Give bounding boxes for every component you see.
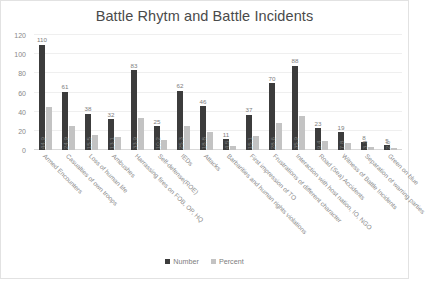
bar-group: 7028.6 (264, 35, 287, 150)
x-axis-label-slot: Frustrations of different character (264, 151, 287, 247)
bar-group: 6225.3 (172, 35, 195, 150)
bar-percent[interactable]: 13.1 (115, 137, 121, 150)
bar-value-label: 35.9 (293, 137, 299, 149)
y-axis-tick-label: 100 (14, 51, 26, 58)
chart-container: Battle Rhytm and Battle Incidents 020406… (0, 0, 409, 279)
bar-group: 11044.9 (34, 35, 57, 150)
bar-group: 4618.8 (195, 35, 218, 150)
bar-group: 197.8 (333, 35, 356, 150)
x-axis-label-slot: Interaction with host nation, IO, NGO (287, 151, 310, 247)
legend-swatch-icon (211, 259, 216, 264)
bar-value-label: 13.1 (109, 137, 115, 149)
bar-value-label: 2.0 (385, 140, 391, 149)
bar-value-label: 10.2 (155, 137, 161, 149)
x-axis-tick-label: Green on blue (386, 153, 419, 186)
bar-group: 8835.9 (287, 35, 310, 150)
bar-percent[interactable]: 44.9 (46, 107, 52, 150)
bar-percent[interactable]: 35.9 (299, 116, 305, 150)
x-axis-label-slot: IEDs (172, 151, 195, 247)
bar-value-label: 62 (177, 83, 184, 89)
x-axis-label-slot: Ambushes (103, 151, 126, 247)
bar-percent[interactable]: 33.9 (138, 118, 144, 150)
x-axis-label-slot: Road (Sea) Accidents (310, 151, 333, 247)
x-axis-label-slot: Barbarities and human rights violations (218, 151, 241, 247)
bar-percent[interactable]: 3.3 (368, 147, 374, 150)
x-axis-label-slot: Green on blue (379, 151, 402, 247)
bar-group: 2510.2 (149, 35, 172, 150)
bar-value-label: 88 (292, 58, 299, 64)
bar-group: 8333.9 (126, 35, 149, 150)
bar-group: 239.4 (310, 35, 333, 150)
legend-item-percent[interactable]: Percent (211, 257, 244, 266)
x-axis-label-slot: Loss of human life (80, 151, 103, 247)
bar-value-label: 4.5 (224, 140, 230, 149)
bar-value-label: 37 (246, 107, 253, 113)
bar-value-label: 33.9 (132, 137, 138, 149)
bar-value-label: 38 (85, 106, 92, 112)
bar-group: 83.3 (356, 35, 379, 150)
bar-group: 6124.9 (57, 35, 80, 150)
bar-percent[interactable]: 15.5 (92, 135, 98, 150)
x-axis-label-slot: Witness of Battle Incidents (333, 151, 356, 247)
bar-percent[interactable]: 4.5 (230, 146, 236, 150)
y-axis-tick-label: 0 (22, 147, 26, 154)
y-axis-tick-label: 80 (18, 70, 26, 77)
bar-value-label: 9.4 (316, 140, 322, 149)
bar-value-label: 3.3 (362, 140, 368, 149)
bar-group: 3815.5 (80, 35, 103, 150)
bar-value-label: 15.5 (86, 137, 92, 149)
bar-groups: 11044.96124.93815.53213.18333.92510.2622… (34, 35, 402, 150)
legend-label: Number (173, 257, 199, 266)
legend-item-number[interactable]: Number (165, 257, 199, 266)
bar-value-label: 19 (338, 125, 345, 131)
bar-value-label: 44.9 (40, 137, 46, 149)
x-axis-label-slot: Self-defense(ROE) (149, 151, 172, 247)
legend-swatch-icon (165, 259, 170, 264)
bar-value-label: 61 (62, 84, 69, 90)
bar-value-label: 11 (223, 132, 229, 138)
bar-value-label: 70 (269, 76, 276, 82)
x-axis-label-slot: Attacks (195, 151, 218, 247)
legend-label: Percent (219, 257, 244, 266)
bar-value-label: 23 (315, 121, 322, 127)
bar-group: 52.0 (379, 35, 402, 150)
bar-value-label: 25 (154, 119, 161, 125)
x-axis-label-slot: Armed Encounters (34, 151, 57, 247)
bar-value-label: 110 (37, 37, 47, 43)
y-axis-tick-label: 60 (18, 89, 26, 96)
bar-group: 114.5 (218, 35, 241, 150)
x-axis-label-slot: Harrassing fires on FOB, OP, HQ (126, 151, 149, 247)
bar-number[interactable]: 110 (39, 45, 45, 150)
y-axis-tick-label: 20 (18, 127, 26, 134)
bar-group: 3213.1 (103, 35, 126, 150)
x-axis-labels: Armed EncountersCasualties of own troops… (34, 151, 402, 247)
y-axis-tick-label: 120 (14, 32, 26, 39)
x-axis-label-slot: Separation of warring parties (356, 151, 379, 247)
bar-value-label: 28.6 (270, 137, 276, 149)
bar-value-label: 7.8 (339, 140, 345, 149)
bar-value-label: 15.1 (247, 137, 253, 149)
x-axis-label-slot: Casualties of own troops (57, 151, 80, 247)
bar-percent[interactable]: 24.9 (69, 126, 75, 150)
bar-percent[interactable]: 25.3 (184, 126, 190, 150)
chart-legend: Number Percent (1, 257, 408, 266)
bar-percent[interactable]: 10.2 (161, 140, 167, 150)
bar-percent[interactable]: 15.1 (253, 136, 259, 150)
bar-value-label: 83 (131, 63, 138, 69)
bar-percent[interactable]: 7.8 (345, 143, 351, 150)
bar-percent[interactable]: 28.6 (276, 123, 282, 150)
plot-area: 020406080100120 11044.96124.93815.53213.… (34, 35, 402, 150)
bar-value-label: 46 (200, 99, 207, 105)
chart-title: Battle Rhytm and Battle Incidents (1, 8, 408, 24)
bar-value-label: 24.9 (63, 137, 69, 149)
x-axis-label-slot: First impression of TO (241, 151, 264, 247)
bar-value-label: 32 (108, 112, 115, 118)
bar-percent[interactable]: 9.4 (322, 141, 328, 150)
y-axis-tick-label: 40 (18, 108, 26, 115)
x-axis-tick-label: IEDs (179, 153, 193, 167)
bar-percent[interactable]: 2.0 (391, 148, 397, 150)
bar-value-label: 25.3 (178, 137, 184, 149)
bar-group: 3715.1 (241, 35, 264, 150)
bar-percent[interactable]: 18.8 (207, 132, 213, 150)
bar-value-label: 18.8 (201, 137, 207, 149)
